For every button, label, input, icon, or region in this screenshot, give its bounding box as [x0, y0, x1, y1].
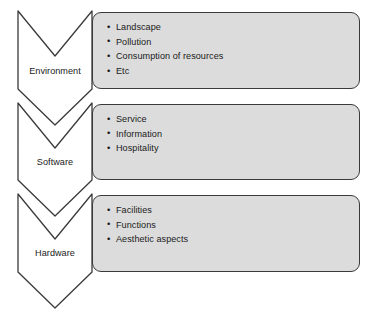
content-box-hardware: Facilities Functions Aesthetic aspects: [92, 195, 360, 272]
list-item: Facilities: [107, 203, 359, 218]
list-item: Landscape: [107, 20, 359, 35]
list-item: Etc: [107, 64, 359, 79]
chevron-hardware: [18, 194, 92, 308]
chevron-software: [18, 103, 92, 216]
content-box-software: Service Information Hospitality: [92, 104, 360, 180]
diagram-root: Environment Landscape Pollution Consumpt…: [0, 0, 377, 319]
list-item: Information: [107, 127, 359, 142]
list-item: Aesthetic aspects: [107, 232, 359, 247]
list-item: Service: [107, 112, 359, 127]
list-item: Pollution: [107, 35, 359, 50]
chevron-label-software: Software: [18, 157, 92, 167]
chevron-label-hardware: Hardware: [18, 248, 92, 258]
list-item: Consumption of resources: [107, 49, 359, 64]
bullet-list-hardware: Facilities Functions Aesthetic aspects: [93, 196, 359, 247]
bullet-list-software: Service Information Hospitality: [93, 105, 359, 156]
bullet-list-environment: Landscape Pollution Consumption of resou…: [93, 13, 359, 78]
list-item: Hospitality: [107, 141, 359, 156]
chevron-label-environment: Environment: [18, 66, 92, 76]
chevron-environment: [18, 11, 92, 125]
content-box-environment: Landscape Pollution Consumption of resou…: [92, 12, 360, 89]
list-item: Functions: [107, 218, 359, 233]
